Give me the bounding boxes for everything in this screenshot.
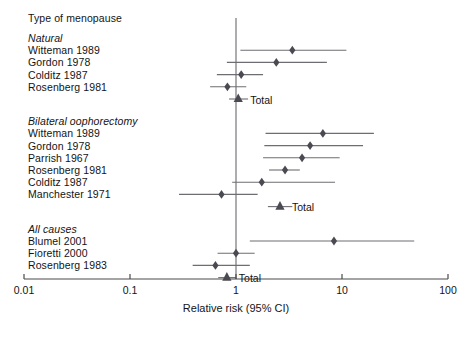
total-label: Total [292, 201, 314, 213]
point-marker-diamond [299, 153, 305, 162]
forest-plot: Type of menopauseNaturalWitteman 1989Gor… [0, 0, 472, 339]
study-label: Gordon 1978 [28, 141, 90, 152]
point-marker-diamond [238, 70, 244, 79]
study-label: Blumel 2001 [28, 236, 87, 247]
group-header-0: Natural [28, 33, 63, 44]
x-tick-label-3: 10 [336, 284, 348, 296]
x-tick-label-0: 0.01 [14, 284, 34, 296]
study-label: Colditz 1987 [28, 177, 88, 188]
study-label: Witteman 1989 [28, 128, 100, 139]
study-label: Rosenberg 1981 [28, 165, 107, 176]
x-tick-label-2: 1 [233, 284, 239, 296]
group-header-2: All causes [28, 224, 77, 235]
x-tick-label-1: 0.1 [123, 284, 138, 296]
study-label: Manchester 1971 [28, 189, 111, 200]
x-tick-label-4: 100 [439, 284, 457, 296]
point-marker-triangle [275, 201, 284, 210]
study-label: Gordon 1978 [28, 57, 90, 68]
point-marker-triangle [234, 93, 243, 102]
point-marker-diamond [307, 141, 313, 150]
group-header-1: Bilateral oophorectomy [28, 116, 138, 127]
point-marker-diamond [212, 261, 218, 270]
chart-title: Type of menopause [28, 13, 122, 24]
point-marker-diamond [218, 190, 224, 199]
point-marker-diamond [320, 129, 326, 138]
study-label: Rosenberg 1983 [28, 260, 107, 271]
total-label: Total [250, 94, 272, 106]
study-label: Witteman 1989 [28, 45, 100, 56]
point-marker-diamond [282, 166, 288, 175]
study-label: Colditz 1987 [28, 70, 88, 81]
point-marker-diamond [259, 178, 265, 187]
study-label: Fioretti 2000 [28, 248, 88, 259]
total-label: Total [239, 272, 261, 284]
study-label: Rosenberg 1981 [28, 82, 107, 93]
x-axis-title: Relative risk (95% CI) [183, 302, 289, 314]
point-marker-diamond [233, 249, 239, 258]
point-marker-diamond [224, 82, 230, 91]
point-marker-diamond [331, 237, 337, 246]
point-marker-diamond [289, 46, 295, 55]
point-marker-diamond [273, 58, 279, 67]
study-label: Parrish 1967 [28, 153, 89, 164]
